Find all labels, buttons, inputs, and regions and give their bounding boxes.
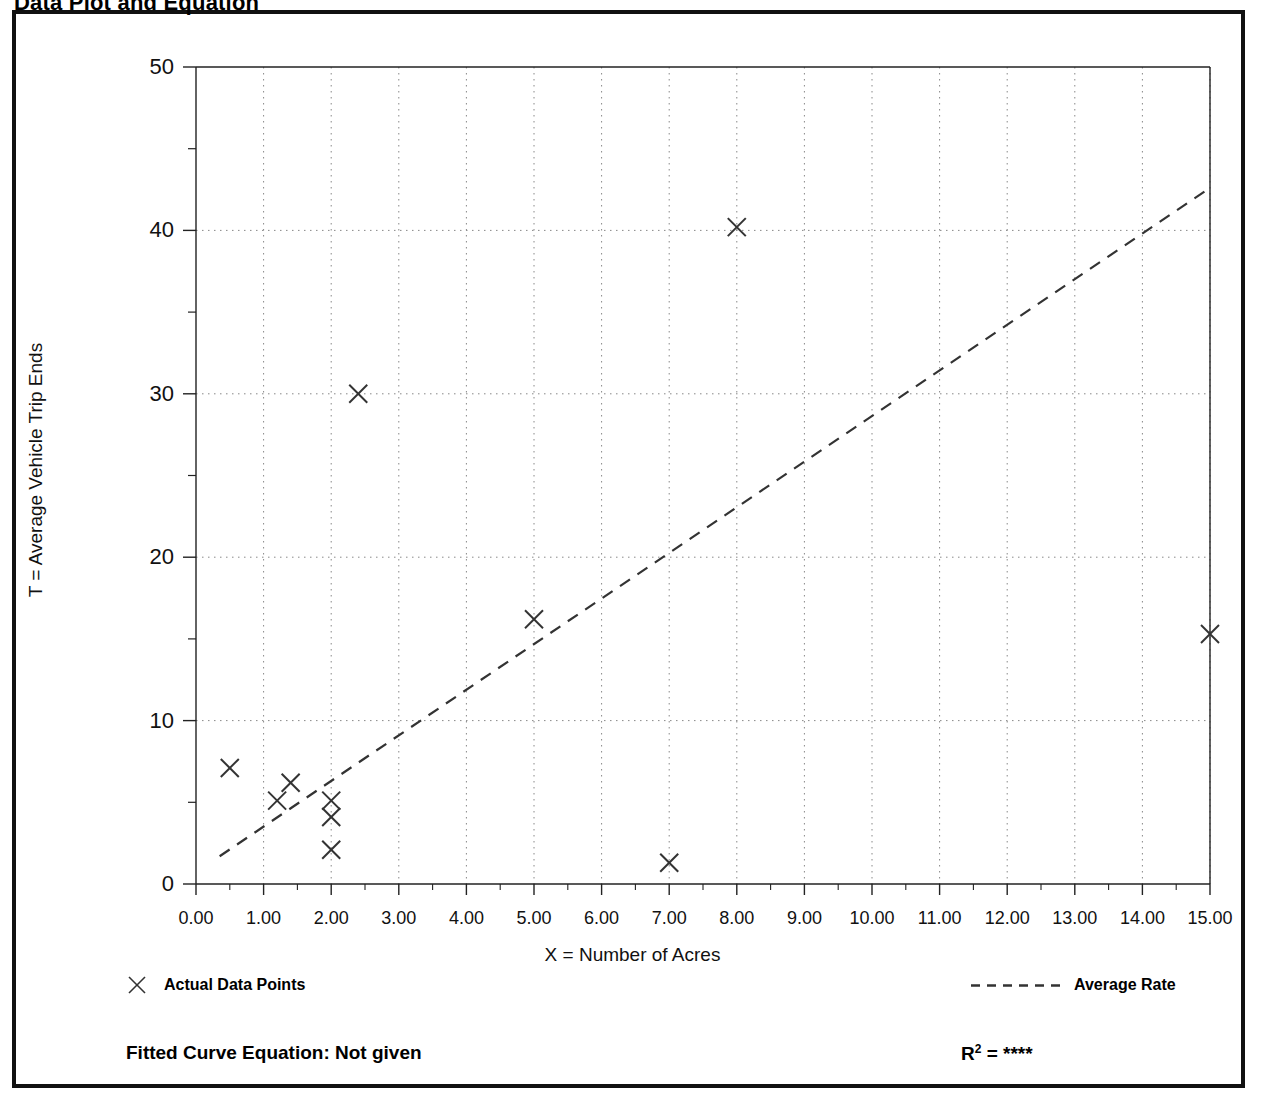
fitted-curve-equation: Fitted Curve Equation: Not given	[126, 1042, 422, 1064]
x-tick-label: 15.00	[1187, 908, 1232, 928]
grid-lines	[196, 67, 1210, 884]
data-point-markers	[221, 218, 1219, 872]
legend-actual-data-points-label: Actual Data Points	[164, 976, 305, 994]
data-point-marker	[221, 759, 239, 777]
y-axis-title: T = Average Vehicle Trip Ends	[25, 260, 47, 680]
r-squared-value: R2 = ****	[961, 1042, 1033, 1065]
x-tick-label: 6.00	[584, 908, 619, 928]
data-point-marker	[322, 841, 340, 859]
x-tick-label: 12.00	[985, 908, 1030, 928]
x-tick-label: 0.00	[178, 908, 213, 928]
tick-labels: 010203040500.001.002.003.004.005.006.007…	[150, 54, 1233, 928]
figure-frame: 010203040500.001.002.003.004.005.006.007…	[12, 10, 1245, 1088]
x-tick-label: 10.00	[849, 908, 894, 928]
x-tick-label: 2.00	[314, 908, 349, 928]
scatter-chart-svg: 010203040500.001.002.003.004.005.006.007…	[16, 14, 1249, 1092]
r-squared-symbol: R	[961, 1043, 975, 1064]
x-tick-label: 7.00	[652, 908, 687, 928]
x-tick-label: 8.00	[719, 908, 754, 928]
x-axis-title: X = Number of Acres	[16, 944, 1249, 966]
data-point-marker	[282, 774, 300, 792]
x-tick-label: 11.00	[918, 908, 962, 928]
y-tick-label: 10	[150, 708, 174, 733]
x-tick-label: 5.00	[516, 908, 551, 928]
y-tick-label: 50	[150, 54, 174, 79]
page-title: Data Plot and Equation	[14, 0, 259, 16]
tick-marks	[183, 67, 1210, 895]
x-tick-label: 4.00	[449, 908, 484, 928]
axes	[196, 67, 1210, 884]
y-tick-label: 0	[162, 871, 174, 896]
x-marker-icon	[126, 974, 148, 996]
y-tick-label: 20	[150, 544, 174, 569]
x-tick-label: 14.00	[1120, 908, 1165, 928]
x-tick-label: 1.00	[246, 908, 281, 928]
y-tick-label: 30	[150, 381, 174, 406]
average-rate-trend-line	[220, 188, 1210, 856]
legend-average-rate-label: Average Rate	[1074, 976, 1176, 994]
trend-line	[220, 188, 1210, 856]
x-tick-label: 9.00	[787, 908, 822, 928]
chart-plot-area: 010203040500.001.002.003.004.005.006.007…	[16, 14, 1249, 1092]
y-tick-label: 40	[150, 217, 174, 242]
x-tick-label: 13.00	[1052, 908, 1097, 928]
data-point-marker	[268, 792, 286, 810]
r-squared-number: = ****	[987, 1043, 1033, 1064]
r-squared-exponent: 2	[975, 1042, 982, 1056]
data-point-marker	[728, 218, 746, 236]
dashed-line-icon	[971, 984, 1063, 987]
data-point-marker	[660, 854, 678, 872]
x-tick-label: 3.00	[381, 908, 416, 928]
